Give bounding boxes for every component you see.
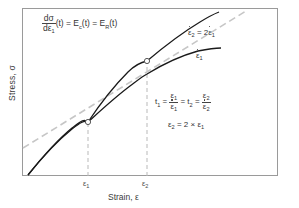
annotation-main-equation: dσ dε1 (t) = Ec(t) = ER(t) (42, 14, 117, 34)
t1-denominator: ε1 (169, 102, 178, 113)
x-axis-title: Strain, ε (108, 192, 139, 202)
chart-figure: dσ dε1 (t) = Ec(t) = ER(t) ε2 = 2ε1 ε1 t… (0, 0, 299, 208)
curve-label-lower: ε1 (196, 52, 203, 62)
marker-eps1 (85, 119, 90, 124)
equation-part-3: (t) (109, 18, 117, 28)
curve-label-upper: ε2 = 2ε1 (188, 29, 215, 39)
annotation-strain-equation: ε2 = 2 × ε1 (168, 121, 204, 131)
t2-denominator: ε2 (202, 102, 211, 113)
y-axis-title: Stress, σ (7, 43, 17, 123)
xtick-label-eps1: ε1 (83, 179, 89, 189)
equation-part-1: (t) = E (56, 18, 79, 28)
derivative-numerator: dσ (42, 14, 56, 23)
t1-fraction: ε1 ε1 (169, 92, 178, 113)
t2-fraction: ε2 ε2 (202, 92, 211, 113)
xtick-label-eps2: ε2 (142, 179, 148, 189)
equation-part-2: (t) = E (82, 18, 105, 28)
marker-eps2 (144, 58, 149, 63)
eps1-rate-symbol: ε (196, 52, 200, 60)
eps2-rate-symbol: ε (188, 29, 192, 37)
annotation-time-equation: t1 = ε1 ε1 = t2 = ε2 ε2 (155, 92, 211, 113)
derivative-fraction: dσ dε1 (42, 14, 56, 34)
derivative-denominator: dε1 (42, 23, 56, 35)
eps1-rate-symbol: ε (208, 29, 212, 37)
